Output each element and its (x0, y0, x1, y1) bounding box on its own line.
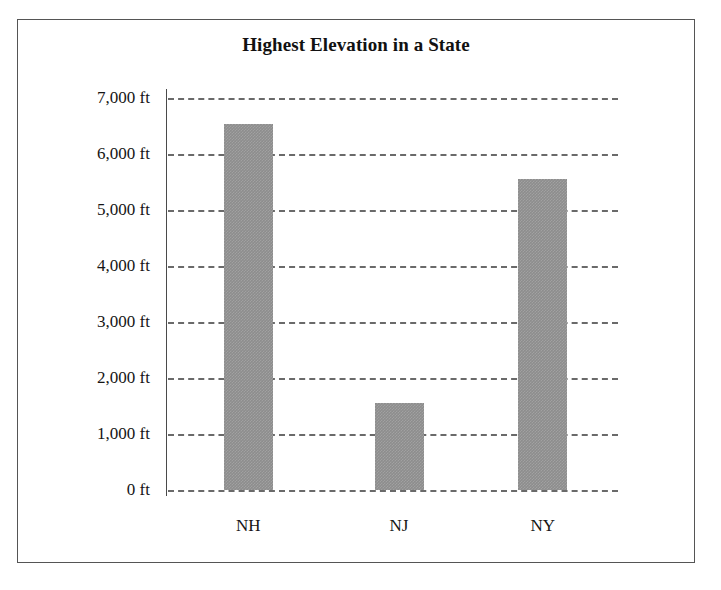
y-axis-tick-label: 3,000 ft (97, 312, 150, 332)
bar-ny (518, 179, 567, 490)
x-axis-tick-label: NJ (390, 516, 409, 536)
plot-area: 7,000 ft6,000 ft5,000 ft4,000 ft3,000 ft… (166, 98, 618, 490)
y-axis-tick-label: 6,000 ft (97, 144, 150, 164)
chart-title: Highest Elevation in a State (18, 34, 694, 56)
y-axis-tick-label: 5,000 ft (97, 200, 150, 220)
bar-nj (375, 403, 424, 490)
chart-frame: Highest Elevation in a State 7,000 ft6,0… (17, 19, 695, 563)
y-axis-line (166, 89, 167, 496)
y-axis-tick-label: 1,000 ft (97, 424, 150, 444)
y-axis-tick-label: 4,000 ft (97, 256, 150, 276)
y-axis-tick-label: 2,000 ft (97, 368, 150, 388)
y-axis-tick-label: 7,000 ft (97, 88, 150, 108)
y-axis-tick-label: 0 ft (127, 480, 150, 500)
x-axis-tick-label: NH (236, 516, 261, 536)
x-axis-tick-label: NY (530, 516, 555, 536)
gridline (168, 98, 618, 100)
bar-nh (224, 124, 273, 490)
gridline (168, 490, 618, 492)
